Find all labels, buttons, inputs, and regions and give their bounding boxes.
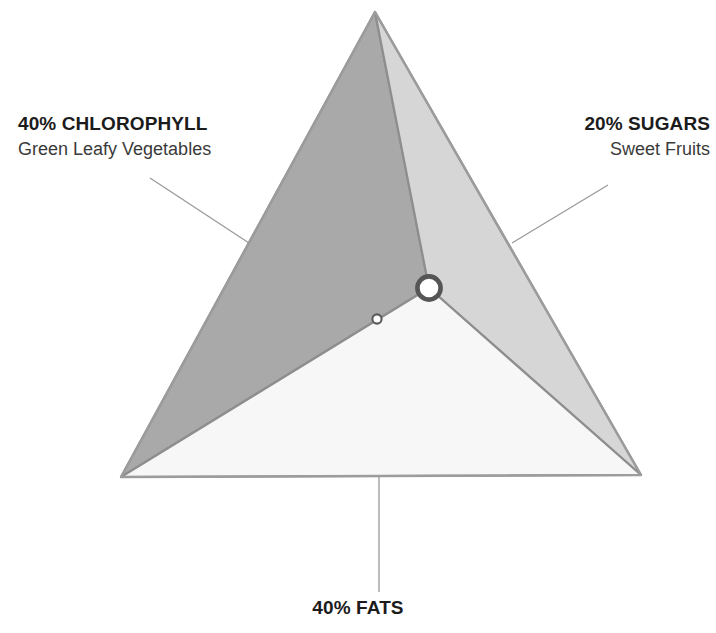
center-point-marker[interactable] bbox=[417, 276, 440, 299]
ternary-diagram-canvas bbox=[0, 0, 716, 633]
callout-fats-title: 40% FATS bbox=[0, 598, 716, 617]
callout-sugars-subtitle: Sweet Fruits bbox=[584, 140, 710, 158]
callout-chlorophyll-subtitle: Green Leafy Vegetables bbox=[18, 140, 211, 158]
callout-fats: 40% FATS bbox=[0, 598, 716, 617]
callout-sugars: 20% SUGARS Sweet Fruits bbox=[584, 114, 710, 158]
leader-line-sugars bbox=[512, 185, 608, 243]
ternary-diagram-figure: 40% CHLOROPHYLL Green Leafy Vegetables 2… bbox=[0, 0, 716, 633]
callout-chlorophyll: 40% CHLOROPHYLL Green Leafy Vegetables bbox=[18, 114, 211, 158]
callout-sugars-title: 20% SUGARS bbox=[584, 114, 710, 133]
leader-line-chlorophyll bbox=[150, 178, 249, 243]
callout-chlorophyll-title: 40% CHLOROPHYLL bbox=[18, 114, 211, 133]
secondary-point-marker[interactable] bbox=[372, 314, 381, 323]
